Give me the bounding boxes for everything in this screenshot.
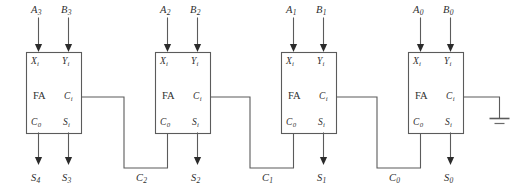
stage-3-sum-output-label: S3 [62, 173, 71, 184]
stage-3-pin-carry-in-label: Ci [64, 92, 72, 102]
stage-3-pin-x-label: Xi [31, 57, 39, 67]
stage-2-input-b-label: B2 [190, 5, 200, 16]
carry-wire-c2 [82, 97, 168, 168]
stage-1-pin-x-label: Xi [286, 57, 294, 67]
stage-0-block-label: FA [415, 91, 428, 102]
stage-1-graphics [282, 18, 421, 168]
stage-1-block-label: FA [288, 91, 301, 102]
stage-2-input-b-arrowhead [194, 44, 201, 52]
overflow-output-label: S4 [31, 173, 40, 184]
stage-2-input-a-arrowhead [164, 44, 171, 52]
ground-connection-wire [464, 97, 500, 118]
stage-1-pin-sum-label: Si [318, 118, 325, 128]
stage-3-sum-arrowhead [65, 157, 72, 165]
stage-1-pin-y-label: Yi [317, 57, 324, 67]
stage-2-pin-y-label: Yi [191, 57, 198, 67]
carry-label-c2: C2 [136, 173, 147, 184]
stage-3-pin-y-label: Yi [62, 57, 69, 67]
stage-2-input-a-label: A2 [160, 5, 170, 16]
stage-0-pin-carry-out-label: C0 [413, 118, 423, 128]
stage-2-sum-output-label: S2 [191, 173, 200, 184]
stage-0-pin-y-label: Yi [444, 57, 451, 67]
stage-2-sum-arrowhead [194, 157, 201, 165]
stage-1-sum-arrowhead [320, 157, 327, 165]
stage-1-input-a-arrowhead [290, 44, 297, 52]
stage-0-pin-sum-label: Si [445, 118, 452, 128]
stage-0-pin-carry-in-label: Ci [446, 92, 454, 102]
stage-0-pin-x-label: Xi [413, 57, 421, 67]
stage-1-input-b-arrowhead [320, 44, 327, 52]
stage-2-pin-carry-out-label: C0 [160, 118, 170, 128]
stage-3-input-a-label: A3 [31, 5, 41, 16]
stage-3-block-label: FA [33, 91, 46, 102]
stage-2-pin-sum-label: Si [192, 118, 199, 128]
carry-wire-c0 [337, 97, 421, 168]
stage-1-input-a-label: A1 [286, 5, 296, 16]
stage-3-overflow-arrowhead [35, 157, 42, 165]
stage-3-pin-carry-out-label: C0 [31, 118, 41, 128]
stage-0-input-a-label: A0 [413, 5, 423, 16]
stage-0-input-a-arrowhead [417, 44, 424, 52]
stage-2-graphics [156, 18, 294, 168]
stage-3-graphics [27, 18, 168, 168]
stage-0-input-b-arrowhead [447, 44, 454, 52]
stage-0-sum-arrowhead [447, 157, 454, 165]
stage-2-pin-x-label: Xi [160, 57, 168, 67]
ripple-carry-adder-diagram: A3 B3 Xi Yi FA Ci C0 Si S4 S3 A2 B2 Xi Y… [0, 0, 524, 194]
stage-3-input-b-arrowhead [65, 44, 72, 52]
stage-1-input-b-label: B1 [316, 5, 326, 16]
stage-2-pin-carry-in-label: Ci [193, 92, 201, 102]
stage-3-input-a-arrowhead [35, 44, 42, 52]
stage-3-pin-sum-label: Si [63, 118, 70, 128]
stage-1-pin-carry-in-label: Ci [319, 92, 327, 102]
stage-1-sum-output-label: S1 [317, 173, 326, 184]
carry-label-c0: C0 [389, 173, 400, 184]
stage-2-block-label: FA [162, 91, 175, 102]
stage-0-input-b-label: B0 [443, 5, 453, 16]
stage-0-sum-output-label: S0 [444, 173, 453, 184]
stage-1-pin-carry-out-label: C0 [286, 118, 296, 128]
stage-3-input-b-label: B3 [61, 5, 71, 16]
carry-label-c1: C1 [262, 173, 273, 184]
